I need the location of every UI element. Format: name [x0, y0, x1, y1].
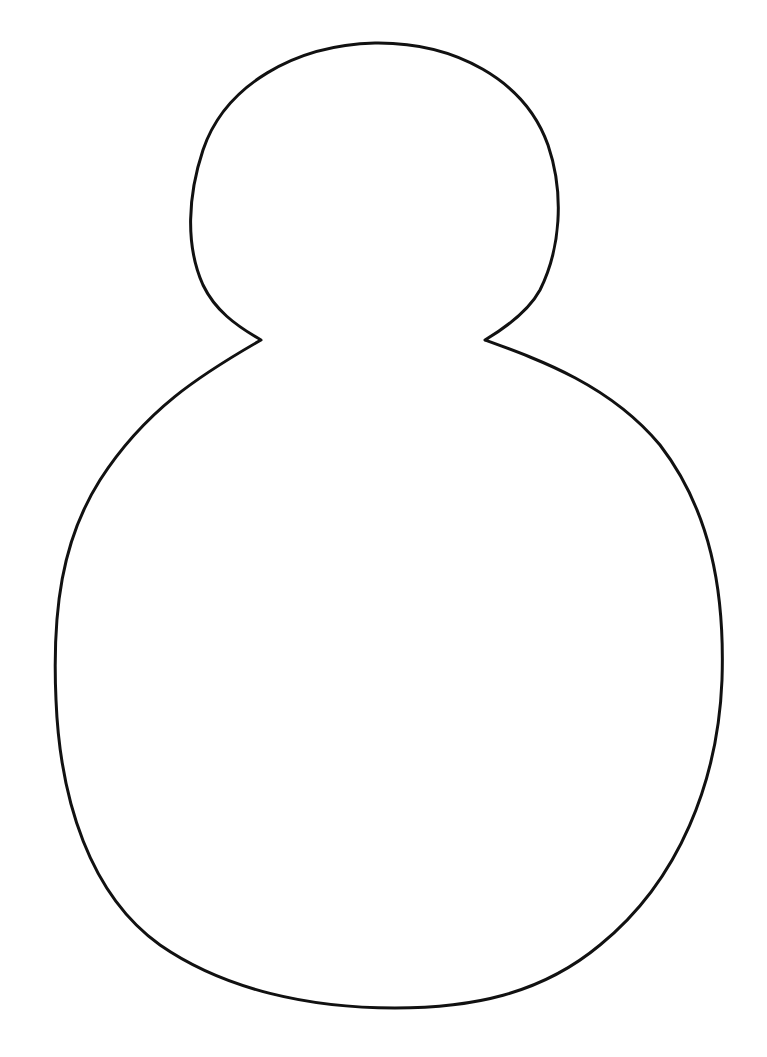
drawing-canvas — [0, 0, 767, 1057]
snowman-outline-icon — [0, 0, 767, 1057]
snowman-outline — [55, 43, 722, 1008]
